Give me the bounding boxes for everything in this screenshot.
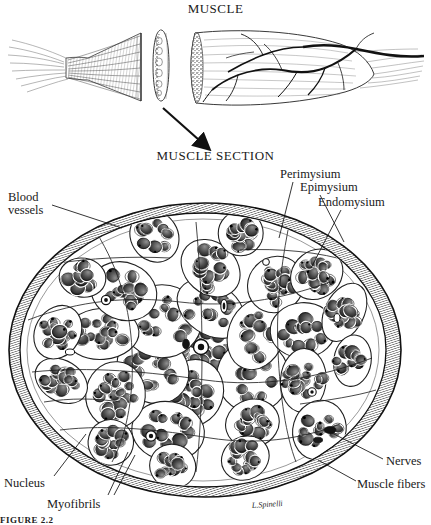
- muscle-fiber: [202, 308, 213, 320]
- fiber-nucleus: [337, 370, 339, 372]
- fiber-nucleus: [306, 261, 308, 263]
- fiber-nucleus: [139, 326, 141, 328]
- fiber-nucleus: [176, 310, 178, 312]
- label-blood-vessels: Blood vessels: [8, 191, 43, 217]
- fiber-nucleus: [332, 281, 335, 284]
- fiber-nucleus: [319, 433, 322, 436]
- fiber-nucleus: [167, 295, 170, 298]
- fiber-nucleus: [303, 416, 306, 419]
- fiber-nucleus: [204, 287, 206, 289]
- fiber-nucleus: [242, 432, 244, 434]
- label-endomysium: Endomysium: [318, 196, 385, 209]
- muscle-fiber: [171, 457, 185, 470]
- fiber-nucleus: [364, 358, 366, 360]
- fiber-nucleus: [249, 220, 251, 222]
- fiber-nucleus: [74, 335, 76, 337]
- fiber-nucleus: [107, 457, 109, 459]
- fiber-nucleus: [69, 320, 72, 323]
- fiber-nucleus: [308, 323, 310, 325]
- fiber-nucleus: [109, 270, 112, 273]
- fiber-nucleus: [154, 251, 156, 253]
- fiber-nucleus: [107, 373, 110, 376]
- fiber-nucleus: [101, 429, 104, 432]
- fiber-nucleus: [319, 422, 322, 425]
- fiber-nucleus: [62, 347, 64, 349]
- fiber-nucleus: [313, 290, 315, 292]
- fiber-nucleus: [114, 322, 116, 324]
- fiber-nucleus: [51, 317, 54, 320]
- fiber-nucleus: [292, 392, 295, 395]
- fiber-nucleus: [156, 474, 159, 477]
- fiber-nucleus: [188, 419, 191, 422]
- fiber-nucleus: [306, 270, 309, 273]
- fiber-nucleus: [195, 298, 197, 300]
- fiber-nucleus: [325, 310, 328, 313]
- fiber-nucleus: [141, 225, 143, 227]
- fiber-nucleus: [125, 432, 128, 435]
- fiber-nucleus: [259, 361, 261, 363]
- fiber-nucleus: [240, 321, 243, 324]
- fiber-nucleus: [332, 360, 334, 362]
- fiber-nucleus: [185, 467, 187, 469]
- fiber-nucleus: [143, 332, 145, 334]
- fiber-nucleus: [206, 292, 208, 294]
- fiber-nucleus: [205, 316, 208, 319]
- fiber-nucleus: [269, 424, 271, 426]
- fiber-nucleus: [313, 445, 315, 447]
- fiber-nucleus: [94, 392, 96, 394]
- fiber-nucleus: [261, 321, 263, 323]
- fiber-nucleus: [337, 325, 340, 328]
- fiber-nucleus: [326, 277, 329, 280]
- fiber-nucleus: [247, 315, 249, 317]
- fiber-nucleus: [39, 379, 42, 382]
- fiber-nucleus: [241, 335, 243, 337]
- fiber-nucleus: [98, 342, 100, 344]
- fiber-nucleus: [245, 408, 247, 410]
- fiber-nucleus: [191, 370, 193, 372]
- fiber-nucleus: [342, 346, 345, 349]
- fiber-nucleus: [114, 378, 116, 380]
- fiber-nucleus: [125, 372, 127, 374]
- fiber-nucleus: [230, 225, 233, 228]
- label-blood-vessels-line1: Blood: [8, 190, 39, 204]
- fiber-nucleus: [223, 267, 225, 269]
- fiber-nucleus: [210, 406, 213, 409]
- muscle-fiber: [192, 386, 202, 397]
- muscle-slice: [153, 30, 169, 101]
- fiber-nucleus: [175, 453, 177, 455]
- fiber-nucleus: [301, 262, 303, 264]
- fiber-nucleus: [290, 384, 293, 387]
- fiber-nucleus: [237, 251, 239, 253]
- fiber-nucleus: [258, 461, 260, 463]
- label-myofibrils: Myofibrils: [47, 498, 100, 511]
- fiber-nucleus: [204, 281, 207, 284]
- fiber-nucleus: [136, 226, 138, 228]
- fiber-nucleus: [255, 228, 257, 230]
- fiber-nucleus: [248, 351, 250, 353]
- fiber-nucleus: [196, 260, 198, 262]
- fiber-nucleus: [152, 411, 155, 414]
- muscle-fiber: [315, 375, 323, 384]
- label-nerves: Nerves: [386, 455, 421, 468]
- fiber-nucleus: [323, 292, 325, 294]
- fiber-nucleus: [139, 245, 141, 247]
- fiber-nucleus: [245, 472, 247, 474]
- fiber-nucleus: [258, 406, 261, 409]
- fiber-nucleus: [131, 308, 134, 311]
- title-muscle: MUSCLE: [0, 1, 431, 17]
- label-nucleus: Nucleus: [4, 477, 45, 490]
- fiber-nucleus: [63, 328, 66, 331]
- fiber-nucleus: [115, 331, 118, 334]
- fiber-nucleus: [193, 405, 196, 408]
- figure-caption: FIGURE 2.2: [0, 515, 54, 525]
- fiber-nucleus: [275, 305, 277, 307]
- fiber-nucleus: [280, 383, 283, 386]
- fiber-nucleus: [266, 420, 269, 423]
- fiber-nucleus: [324, 340, 326, 342]
- label-muscle-fibers: Muscle fibers: [357, 478, 427, 492]
- fiber-nucleus: [96, 437, 99, 440]
- fiber-nucleus: [160, 414, 162, 416]
- fiber-nucleus: [159, 454, 161, 456]
- fiber-nucleus: [100, 385, 102, 387]
